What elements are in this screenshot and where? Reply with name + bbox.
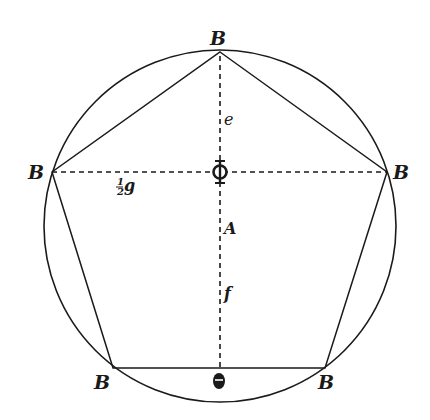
pentagon-in-circle-diagram: B B B B B e A f 1 2 g θ [0,0,430,420]
bottom-mid-symbol [213,373,225,389]
vertex-label-bottom-right: B [317,371,334,393]
vertex-label-right: B [392,161,409,183]
segment-label-e: e [224,110,233,129]
vertex-label-top: B [209,27,226,49]
segment-label-A: A [222,219,236,238]
half-g-denominator: 2 [116,186,124,197]
vertex-label-left: B [27,161,44,183]
half-g-variable: g [124,176,135,195]
half-g-label: 1 2 g [116,176,135,197]
segment-label-f: f [223,284,234,303]
vertex-label-bottom-left: B [93,371,110,393]
